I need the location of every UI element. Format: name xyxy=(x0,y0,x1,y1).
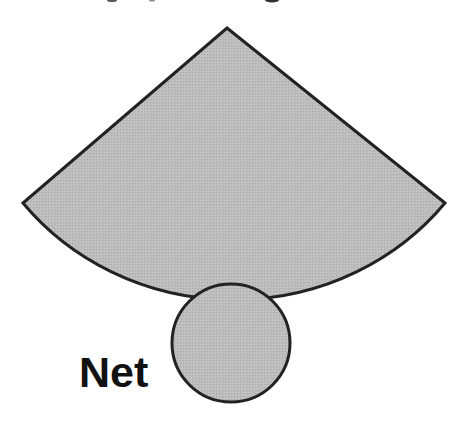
cropped-title-fragments xyxy=(107,0,279,3)
sector-lateral-surface xyxy=(23,28,445,300)
base-circle xyxy=(172,284,290,402)
cone-net-diagram xyxy=(0,0,458,424)
net-label: Net xyxy=(79,348,148,396)
